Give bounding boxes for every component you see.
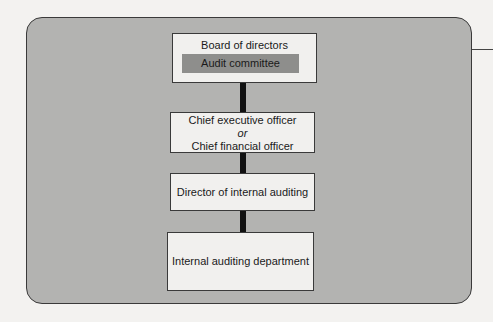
cfo-label: Chief financial officer (171, 140, 314, 153)
department-label: Internal auditing department (172, 255, 309, 267)
department-box: Internal auditing department (167, 232, 314, 291)
ceo-label: Chief executive officer (171, 114, 314, 127)
director-label: Director of internal auditing (177, 186, 308, 198)
ceo-cfo-box: Chief executive officer or Chief financi… (170, 112, 315, 153)
audit-committee-box: Audit committee (182, 54, 299, 73)
or-text: or (238, 127, 248, 139)
margin-rule (472, 49, 493, 50)
connector-2 (240, 153, 246, 173)
board-label: Board of directors (201, 39, 288, 51)
connector-1 (240, 83, 246, 112)
director-box: Director of internal auditing (170, 173, 315, 211)
connector-3 (240, 211, 246, 233)
or-label: or (171, 127, 314, 140)
